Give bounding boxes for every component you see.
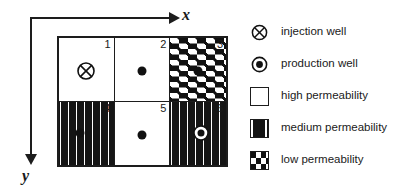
production-well-icon (192, 125, 209, 142)
legend-label: high permeability (281, 90, 368, 102)
legend: injection well production well high perm… (246, 16, 406, 176)
low-permeability-swatch-icon (246, 149, 272, 171)
legend-item-low-permeability: low permeability (246, 144, 406, 176)
grid-cell-4: 4 (59, 102, 115, 166)
legend-item-high-permeability: high permeability (246, 80, 406, 112)
medium-permeability-swatch-icon (246, 117, 272, 139)
grid-cell-6: 6 (170, 102, 226, 166)
reservoir-grid: 1 2 3 4 5 (57, 36, 228, 167)
grid-cell-1: 1 (59, 38, 115, 102)
cell-number-label: 2 (160, 39, 166, 50)
cell-number-label: 3 (217, 39, 223, 50)
legend-item-medium-permeability: medium permeability (246, 112, 406, 144)
well-dot-icon (194, 66, 203, 75)
grid-cell-5: 5 (115, 102, 171, 166)
grid-cell-3: 3 (170, 38, 226, 102)
injection-well-icon (77, 61, 96, 80)
y-axis-line (30, 17, 32, 157)
y-axis-arrowhead-icon (25, 154, 37, 165)
legend-label: production well (281, 58, 358, 70)
x-axis-arrowhead-icon (169, 12, 180, 24)
cell-number-label: 6 (217, 103, 223, 114)
high-permeability-swatch-icon (246, 85, 272, 107)
reservoir-grid-figure: x y 1 2 3 4 (0, 0, 410, 189)
well-dot-icon (75, 129, 84, 138)
legend-label: medium permeability (281, 122, 387, 134)
legend-label: injection well (281, 26, 346, 38)
legend-item-injection-well: injection well (246, 16, 406, 48)
legend-label: low permeability (281, 154, 363, 166)
cell-number-label: 5 (160, 103, 166, 114)
production-well-icon (246, 53, 272, 75)
legend-item-production-well: production well (246, 48, 406, 80)
cell-number-label: 1 (105, 39, 111, 50)
x-axis-label: x (182, 6, 190, 24)
well-dot-icon (137, 66, 146, 75)
well-dot-icon (137, 130, 146, 139)
y-axis-label: y (22, 167, 29, 185)
x-axis-line (30, 17, 172, 19)
grid-cell-2: 2 (115, 38, 171, 102)
cell-number-label: 4 (105, 103, 111, 114)
injection-well-icon (246, 21, 272, 43)
